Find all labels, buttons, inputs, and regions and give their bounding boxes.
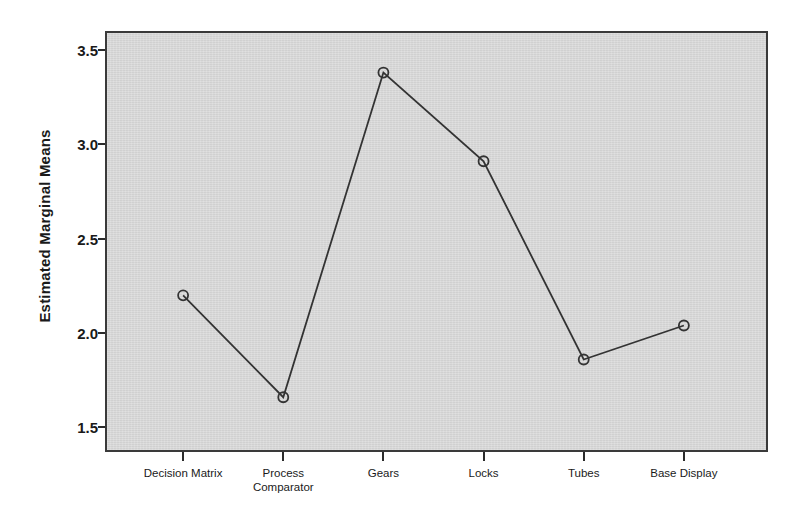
x-axis-tick-mark [382,452,384,461]
y-axis-tick-mark [98,238,105,240]
series-polyline [183,73,684,398]
data-series-line [107,33,766,450]
x-axis-tick-mark [282,452,284,461]
y-axis-tick-mark [98,426,105,428]
y-axis-tick-group: 1.52.02.53.03.5 [28,0,98,512]
x-axis-tick-mark [483,452,485,461]
x-axis-tick-mark [182,452,184,461]
y-axis-tick-mark [98,49,105,51]
y-axis-tick-label: 2.5 [38,230,98,247]
x-axis-tick-mark [583,452,585,461]
x-axis-tick-mark [683,452,685,461]
y-axis-tick-mark [98,332,105,334]
y-axis-tick-label: 1.5 [38,419,98,436]
y-axis-tick-label: 2.0 [38,325,98,342]
y-axis-tick-label: 3.0 [38,136,98,153]
plot-area [105,31,768,452]
x-axis-tick-label: Base Display [609,466,759,480]
y-axis-tick-label: 3.5 [38,41,98,58]
chart-figure: Estimated Marginal Means 1.52.02.53.03.5… [0,0,801,512]
y-axis-tick-mark [98,143,105,145]
